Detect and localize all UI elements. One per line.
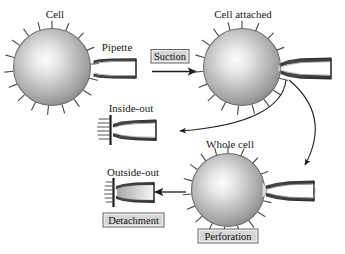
patch-clamp-diagram: Cell (0, 0, 345, 254)
inside-out-label: Inside-out (109, 102, 154, 114)
patch-fringe-inside-out (98, 119, 111, 139)
suction-label: Suction (154, 51, 187, 62)
detachment-label: Detachment (108, 215, 159, 226)
whole-cell-arrow (289, 80, 315, 165)
resealed-membrane (117, 185, 153, 200)
cell-label: Cell (46, 8, 64, 20)
whole-cell-body (183, 147, 271, 235)
suction-box: Suction (151, 50, 189, 64)
panel-whole-cell: Whole cell (183, 138, 315, 235)
cell-body (5, 21, 99, 114)
whole-cell-membrane-circle (192, 154, 265, 227)
step-perforation: Perforation (198, 229, 258, 243)
patch-fringe-outside-out (105, 182, 114, 202)
panel-inside-out: Inside-out (98, 102, 157, 145)
pipette-inside-out (98, 115, 157, 145)
step-detachment: Detachment (103, 213, 164, 227)
pipette-label: Pipette (102, 41, 133, 53)
pipette-free (94, 58, 137, 79)
cell-attached-body (195, 21, 288, 114)
pipette-cell-attached (279, 58, 332, 80)
cell-membrane-circle (14, 29, 91, 106)
pipette-outside-out (105, 178, 155, 207)
panel-outside-out: Outside-out (105, 166, 159, 207)
panel-pipette: Pipette (94, 41, 137, 79)
outside-out-label: Outside-out (107, 166, 159, 178)
cell-attached-label: Cell attached (214, 8, 272, 20)
diagram-canvas: Cell (0, 0, 345, 254)
panel-cell-attached: Cell attached (195, 8, 331, 114)
cell-attached-membrane-circle (204, 29, 281, 106)
whole-cell-label: Whole cell (206, 138, 254, 150)
panel-cell: Cell (5, 8, 99, 114)
perforation-label: Perforation (204, 231, 252, 242)
step-suction: Suction (151, 50, 196, 72)
pipette-whole-cell (266, 181, 315, 202)
